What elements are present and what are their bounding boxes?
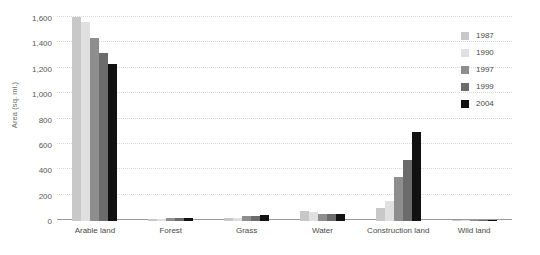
bar: [394, 177, 403, 221]
legend-swatch-icon: [461, 66, 469, 74]
legend-swatch-icon: [461, 32, 469, 40]
x-axis-tick-label: Water: [312, 226, 333, 235]
bar: [157, 219, 166, 221]
bars-layer: [57, 18, 512, 221]
bar: [175, 218, 184, 221]
x-axis-tick-label: Arable land: [75, 226, 115, 235]
bar: [412, 132, 421, 221]
bar-group: [360, 18, 436, 221]
y-axis-tick-label: 1,200: [0, 64, 52, 73]
legend-label: 1990: [476, 49, 494, 57]
bar: [99, 53, 108, 221]
x-axis-tick-label: Construction land: [367, 226, 429, 235]
bar: [81, 22, 90, 221]
bar: [242, 216, 251, 221]
legend-label: 2004: [476, 100, 494, 108]
bar: [224, 218, 233, 221]
y-axis-tick-label: 600: [0, 140, 52, 149]
y-axis-tick-label: 800: [0, 115, 52, 124]
bar: [90, 38, 99, 221]
legend-item[interactable]: 1997: [461, 61, 535, 78]
y-axis-tick-label: 400: [0, 166, 52, 175]
legend-swatch-icon: [461, 83, 469, 91]
legend-label: 1999: [476, 83, 494, 91]
legend-item[interactable]: 1990: [461, 44, 535, 61]
y-axis-tick-label: 1,400: [0, 39, 52, 48]
chart-legend: 19871990199719992004: [461, 27, 535, 112]
y-axis-tick-label: 1,600: [0, 14, 52, 23]
legend-label: 1987: [476, 32, 494, 40]
bar: [251, 216, 260, 221]
y-axis-tick-labels: 02004006008001,0001,2001,4001,600: [0, 18, 52, 221]
legend-swatch-icon: [461, 100, 469, 108]
y-axis-tick-label: 1,000: [0, 90, 52, 99]
legend-item[interactable]: 1987: [461, 27, 535, 44]
x-axis-tick-label: Forest: [159, 226, 182, 235]
legend-swatch-icon: [461, 49, 469, 57]
plot-area: [57, 18, 512, 221]
bar: [479, 220, 488, 221]
bar: [260, 215, 269, 221]
x-axis-tick-label: Wild land: [458, 226, 491, 235]
bar: [461, 220, 470, 221]
bar-group: [133, 18, 209, 221]
y-axis-tick-label: 0: [0, 217, 52, 226]
bar-group: [57, 18, 133, 221]
bar: [488, 220, 497, 221]
bar: [327, 214, 336, 221]
bar: [336, 214, 345, 221]
bar: [385, 201, 394, 221]
x-axis-tick-label: Grass: [236, 226, 257, 235]
legend-item[interactable]: 1999: [461, 78, 535, 95]
bar: [470, 220, 479, 221]
bar-group: [285, 18, 361, 221]
y-axis-tick-label: 200: [0, 191, 52, 200]
bar: [452, 220, 461, 221]
x-axis-tick-labels: Arable landForestGrassWaterConstruction …: [57, 226, 512, 242]
bar: [166, 218, 175, 221]
bar-chart: Area (sq. mi.) 02004006008001,0001,2001,…: [0, 0, 540, 255]
bar: [148, 219, 157, 221]
bar: [318, 214, 327, 221]
bar: [72, 17, 81, 221]
bar: [233, 218, 242, 221]
legend-item[interactable]: 2004: [461, 95, 535, 112]
bar-group: [209, 18, 285, 221]
bar: [300, 211, 309, 221]
bar: [184, 218, 193, 221]
bar: [376, 208, 385, 221]
bar: [108, 64, 117, 221]
legend-label: 1997: [476, 66, 494, 74]
bar: [309, 212, 318, 221]
bar: [403, 160, 412, 221]
